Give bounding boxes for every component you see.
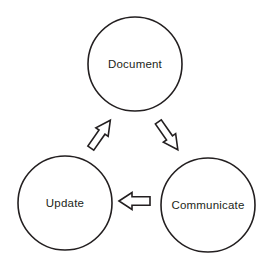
arrow-communicate-to-update[interactable] (119, 193, 150, 210)
node-update[interactable]: Update (18, 156, 112, 250)
document-label: Document (108, 58, 163, 70)
node-communicate[interactable]: Communicate (161, 158, 255, 252)
arrow-glyph-left (119, 193, 150, 210)
diagram-canvas: Document Communicate Update (0, 0, 272, 269)
update-label: Update (46, 197, 84, 209)
arrow-update-to-document[interactable] (85, 116, 117, 152)
cycle-diagram: Document Communicate Update (0, 0, 272, 269)
arrow-glyph-down-right (152, 118, 184, 154)
communicate-label: Communicate (171, 199, 244, 211)
node-document[interactable]: Document (88, 17, 182, 111)
arrow-document-to-communicate[interactable] (152, 118, 184, 154)
arrow-glyph-up-right (85, 116, 117, 152)
